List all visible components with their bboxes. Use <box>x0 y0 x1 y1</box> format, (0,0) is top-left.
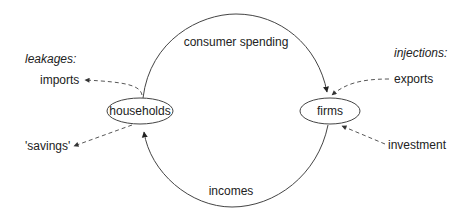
circular-flow-diagram: households firms consumer spending incom… <box>0 0 465 219</box>
savings-dashed-arrow <box>74 125 132 146</box>
investment-dashed-arrow <box>342 126 385 144</box>
imports-dashed-arrow <box>85 80 142 95</box>
imports-label: imports <box>40 73 79 87</box>
households-node: households <box>107 98 173 124</box>
exports-dashed-arrow <box>332 79 389 95</box>
savings-label: 'savings' <box>25 139 70 153</box>
consumer-spending-arc <box>143 14 327 98</box>
consumer-spending-label: consumer spending <box>184 35 289 49</box>
investment-label: investment <box>388 138 447 152</box>
firms-node: firms <box>300 98 360 124</box>
households-label: households <box>109 104 170 118</box>
firms-label: firms <box>317 104 343 118</box>
leakages-heading: leakages: <box>25 52 76 66</box>
incomes-label: incomes <box>209 184 254 198</box>
exports-label: exports <box>394 72 433 86</box>
injections-heading: injections: <box>394 46 447 60</box>
